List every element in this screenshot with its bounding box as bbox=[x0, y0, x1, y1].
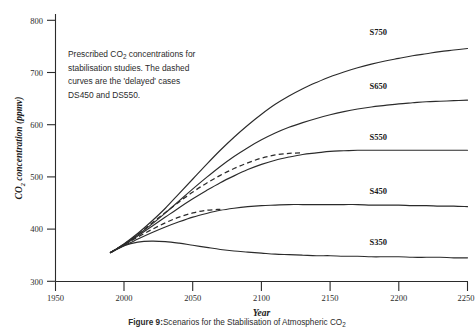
x-tick-label: 2200 bbox=[390, 293, 407, 303]
curve-label-s750: S750 bbox=[369, 27, 386, 37]
curve-label-s450: S450 bbox=[369, 186, 386, 196]
curve-label-s650: S650 bbox=[369, 81, 386, 91]
annotation-line: stabilisation studies. The dashed bbox=[68, 63, 190, 73]
curve-s550 bbox=[110, 150, 467, 252]
x-tick-label: 2150 bbox=[322, 293, 339, 303]
y-axis-ticks bbox=[47, 20, 56, 281]
y-axis-title: CO2 concentration (ppmv) bbox=[14, 97, 26, 200]
y-axis-title-main: CO bbox=[14, 186, 24, 199]
y-tick-label: 400 bbox=[30, 224, 43, 234]
svg-text:CO2 concentration (ppmv): CO2 concentration (ppmv) bbox=[14, 97, 26, 200]
annotation-line: curves are the 'delayed' cases bbox=[68, 76, 180, 86]
x-tick-label: 2100 bbox=[253, 293, 270, 303]
curve-ds450 bbox=[110, 209, 220, 252]
x-axis-tick-labels: 1950 2000 2050 2100 2150 2200 2250 bbox=[47, 293, 475, 303]
caption-body: Scenarios for the Stabilisation of Atmos… bbox=[163, 318, 342, 327]
y-axis-title-rest: concentration (ppmv) bbox=[14, 97, 25, 184]
curve-label-group: S750S650S550S450S350 bbox=[369, 27, 386, 247]
y-tick-label: 500 bbox=[30, 172, 43, 182]
chart-svg: 800 700 600 500 400 300 1950 2000 2050 2… bbox=[0, 0, 475, 329]
caption-lead: Figure 9: bbox=[128, 318, 163, 327]
y-tick-label: 600 bbox=[30, 120, 43, 130]
curve-label-s350: S350 bbox=[369, 237, 386, 247]
x-tick-label: 1950 bbox=[47, 293, 64, 303]
x-tick-label: 2250 bbox=[458, 293, 475, 303]
caption-sub: 2 bbox=[342, 321, 346, 328]
y-tick-label: 800 bbox=[30, 16, 43, 26]
figure-caption: Figure 9:Scenarios for the Stabilisation… bbox=[128, 318, 346, 328]
annotation-line: Prescribed CO2 concentrations for bbox=[68, 49, 196, 60]
figure-container: 800 700 600 500 400 300 1950 2000 2050 2… bbox=[0, 0, 475, 329]
x-axis-title: Year bbox=[253, 308, 271, 318]
curve-s650 bbox=[110, 100, 467, 252]
annotation-block: Prescribed CO2 concentrations for stabil… bbox=[68, 49, 196, 100]
y-axis-tick-labels: 800 700 600 500 400 300 bbox=[30, 16, 43, 287]
x-axis-ticks bbox=[56, 282, 468, 292]
curve-s350 bbox=[110, 241, 467, 258]
x-tick-label: 2000 bbox=[116, 293, 133, 303]
y-tick-label: 700 bbox=[30, 68, 43, 78]
x-tick-label: 2050 bbox=[184, 293, 201, 303]
annotation-line: DS450 and DS550. bbox=[68, 90, 140, 100]
y-tick-label: 300 bbox=[30, 277, 43, 287]
curve-label-s550: S550 bbox=[369, 132, 386, 142]
curve-ds550 bbox=[110, 153, 302, 253]
curve-s450 bbox=[110, 205, 467, 253]
